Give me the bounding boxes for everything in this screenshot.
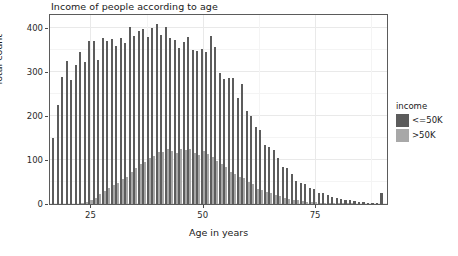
y-axis-title: Total count — [0, 34, 4, 86]
x-tick-label: 25 — [85, 211, 96, 220]
y-tick-mark — [45, 204, 48, 205]
bar — [93, 41, 95, 204]
bar — [380, 193, 382, 204]
y-tick-label: 300 — [27, 68, 43, 77]
legend: income <=50K>50K — [396, 101, 456, 143]
legend-item: <=50K — [396, 113, 456, 127]
bar — [102, 38, 104, 204]
y-tick-mark — [45, 72, 48, 73]
bars-layer — [50, 15, 387, 204]
bar — [115, 46, 117, 204]
y-tick-mark — [45, 116, 48, 117]
x-tick-label: 75 — [310, 211, 321, 220]
legend-swatch-lte-50k — [396, 114, 409, 127]
x-tick-mark — [90, 205, 91, 208]
y-tick-label: 200 — [27, 112, 43, 121]
bar — [371, 203, 373, 204]
x-tick-mark — [203, 205, 204, 208]
chart-title: Income of people according to age — [51, 1, 218, 13]
legend-items: <=50K>50K — [396, 113, 456, 142]
bar — [75, 65, 77, 204]
legend-title: income — [396, 101, 456, 112]
x-tick-label: 50 — [197, 211, 208, 220]
bar — [88, 41, 90, 204]
bar — [367, 203, 369, 204]
legend-item: >50K — [396, 128, 456, 142]
bar — [52, 138, 54, 204]
x-tick-mark — [315, 205, 316, 208]
y-tick-label: 400 — [27, 24, 43, 33]
bar — [353, 201, 355, 204]
y-tick-mark — [45, 160, 48, 161]
bar — [362, 202, 364, 204]
plot-panel — [49, 14, 388, 205]
bar — [79, 52, 81, 204]
x-axis-title: Age in years — [49, 227, 388, 238]
bar — [70, 80, 72, 204]
bar — [358, 202, 360, 204]
legend-label: <=50K — [412, 116, 443, 125]
bar — [84, 62, 86, 204]
y-tick-label: 100 — [27, 156, 43, 165]
bar — [376, 203, 378, 204]
y-tick-label: 0 — [38, 200, 43, 209]
y-tick-mark — [45, 28, 48, 29]
bar — [61, 77, 63, 204]
bar — [66, 61, 68, 204]
chart-figure: Income of people according to age Total … — [0, 0, 458, 256]
bar — [106, 41, 108, 204]
bar — [97, 60, 99, 204]
legend-swatch-gt-50k — [396, 129, 409, 142]
bar — [111, 39, 113, 204]
legend-label: >50K — [412, 131, 436, 140]
bar — [57, 105, 59, 204]
